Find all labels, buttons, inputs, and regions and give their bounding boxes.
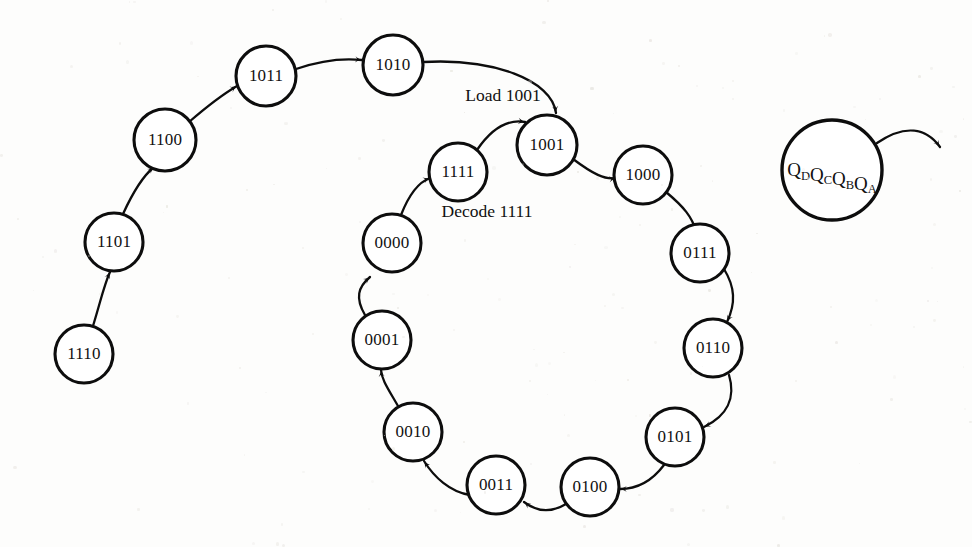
state-label: 1101 (97, 232, 131, 251)
state-label: 1001 (530, 135, 565, 154)
state-node[interactable]: 0001 (353, 311, 411, 369)
state-node[interactable]: 1111 (429, 143, 487, 201)
legend-layer: QDQCQBQA (782, 120, 940, 220)
states-layer: 1110110111001011101010011000011101100101… (55, 35, 742, 516)
transition-arrow (359, 277, 370, 315)
state-node[interactable]: 1001 (517, 115, 577, 175)
transition-arrow (524, 502, 566, 510)
state-node[interactable]: 1000 (614, 146, 672, 204)
state-label: 0101 (658, 427, 693, 446)
legend-output-arrow (877, 131, 940, 147)
transition-arrow (724, 269, 733, 322)
transition-arrow (123, 167, 154, 214)
state-label: 1110 (67, 344, 101, 363)
state-node[interactable]: 0100 (561, 458, 619, 516)
state-node[interactable]: 1101 (85, 213, 143, 271)
state-node[interactable]: 0110 (684, 319, 742, 377)
state-diagram-svg: 1110110111001011101010011000011101100101… (0, 0, 972, 547)
state-label: 0100 (573, 477, 608, 496)
transition-arrow (93, 272, 110, 326)
transition-arrow (704, 375, 731, 427)
transition-arrow (620, 465, 664, 489)
state-label: 1111 (442, 162, 475, 181)
transition-arrow (401, 178, 430, 215)
state-node[interactable]: 0101 (646, 408, 704, 466)
state-label: 0000 (375, 233, 410, 252)
state-label: 1000 (626, 165, 661, 184)
state-node[interactable]: 1010 (363, 35, 423, 95)
state-label: 0010 (396, 422, 431, 441)
state-node[interactable]: 0000 (363, 214, 421, 272)
state-diagram-canvas: 1110110111001011101010011000011101100101… (0, 0, 972, 547)
state-node[interactable]: 0111 (671, 224, 729, 282)
annotation-label-load: Load 1001 (465, 85, 540, 105)
state-node[interactable]: 0011 (467, 456, 525, 514)
state-label: 1011 (249, 66, 283, 85)
state-node[interactable]: 1011 (236, 46, 296, 106)
state-node[interactable]: 0010 (384, 403, 442, 461)
legend-state-node: QDQCQBQA (782, 120, 940, 220)
state-label: 0110 (696, 338, 730, 357)
transition-arrow (573, 159, 616, 178)
transition-arrow (189, 86, 237, 122)
state-node[interactable]: 1110 (55, 325, 113, 383)
state-label: 1100 (148, 130, 182, 149)
state-label: 0001 (365, 330, 400, 349)
state-label: 1010 (376, 55, 411, 74)
annotation-label-decode: Decode 1111 (442, 201, 533, 221)
transition-arrow (424, 461, 470, 495)
state-label: 0111 (683, 243, 717, 262)
transition-arrow (296, 59, 362, 69)
state-node[interactable]: 1100 (134, 109, 196, 171)
transition-arrow (381, 370, 398, 406)
